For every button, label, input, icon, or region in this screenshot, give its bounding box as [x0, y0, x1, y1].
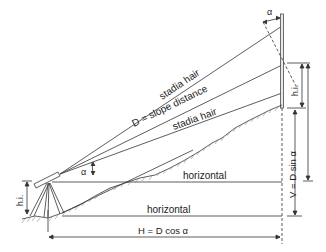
tripod — [30, 183, 64, 232]
alpha-instrument-label: α — [81, 167, 86, 177]
horizontal-lower-label: horizontal — [147, 204, 190, 215]
stadia-diagram: stadia hair D = slope distance stadia ha… — [0, 0, 326, 252]
alpha-rod-label: α — [267, 7, 272, 17]
ground-profile — [22, 105, 282, 219]
hi-rod-label: h.i. — [290, 85, 300, 96]
perpendicular-dashed — [263, 22, 297, 88]
horizontal-upper-label: horizontal — [183, 170, 226, 181]
telescope — [34, 172, 60, 188]
hi-instrument-label: h.i. — [15, 195, 25, 206]
slope-distance-line — [60, 65, 282, 174]
vertical-distance-label: V = D sin α — [287, 151, 298, 198]
horizontal-distance-label: H = D cos α — [138, 225, 189, 236]
leveling-rod — [281, 14, 284, 108]
